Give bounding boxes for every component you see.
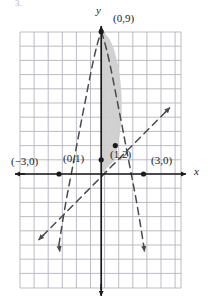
coordinate-plane-graph <box>0 0 214 306</box>
point-label-3-0: (3,0) <box>151 154 172 166</box>
point-label-neg3-0: (−3,0) <box>11 155 38 167</box>
point-label-1-2: (1,2) <box>110 148 131 160</box>
y-axis-label: y <box>96 4 101 16</box>
math-figure: 3. <box>0 0 214 306</box>
point-0-9 <box>99 29 104 34</box>
point-3-0 <box>141 171 146 176</box>
x-axis-label: x <box>194 165 199 177</box>
point-neg3-0 <box>56 171 61 176</box>
point-label-0-1: (0,1) <box>63 152 84 164</box>
point-0-1 <box>99 157 104 162</box>
point-label-0-9: (0,9) <box>113 12 134 24</box>
